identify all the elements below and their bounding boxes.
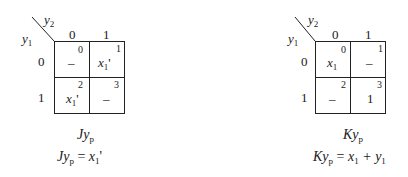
cell-value-3: – bbox=[103, 92, 110, 105]
cell-index-2: 2 bbox=[78, 80, 83, 90]
map-equation: Jyp = x1' bbox=[57, 150, 102, 166]
cell-value-2: x1' bbox=[66, 92, 79, 108]
col-header-0: 0 bbox=[69, 28, 76, 41]
cell-index-0: 0 bbox=[341, 45, 346, 55]
col-header-0: 0 bbox=[332, 28, 339, 41]
cell-index-1: 1 bbox=[116, 44, 121, 54]
cell-value-0: – bbox=[68, 56, 75, 69]
col-variable-label: y2 bbox=[44, 13, 54, 29]
map-equation: Kyp = x1 + y1 bbox=[313, 150, 386, 166]
cell-index-1: 1 bbox=[378, 44, 383, 54]
cell-value-0: x1 bbox=[327, 56, 337, 72]
cell-index-0: 0 bbox=[78, 45, 83, 55]
row-header-1: 1 bbox=[38, 91, 45, 104]
row-header-0: 0 bbox=[38, 55, 45, 68]
row-variable-label: y1 bbox=[22, 32, 32, 48]
cell-index-3: 3 bbox=[114, 80, 119, 90]
row-variable-label: y1 bbox=[288, 32, 298, 48]
col-variable-label: y2 bbox=[308, 13, 318, 29]
karnaugh-map-jyp: y2 y1 0 1 0 1 0 – 1 x1' 2 x1' 3 – Jyp Jy… bbox=[0, 0, 204, 177]
map-title: Jyp bbox=[77, 128, 94, 144]
cell-index-2: 2 bbox=[341, 80, 346, 90]
col-header-1: 1 bbox=[103, 28, 110, 41]
map-title: Kyp bbox=[343, 128, 363, 144]
cell-value-1: x1' bbox=[98, 56, 111, 72]
row-header-1: 1 bbox=[301, 91, 308, 104]
cell-index-3: 3 bbox=[377, 80, 382, 90]
cell-value-3: 1 bbox=[367, 92, 374, 105]
col-header-1: 1 bbox=[365, 28, 372, 41]
cell-value-2: – bbox=[329, 92, 336, 105]
cell-value-1: – bbox=[366, 56, 373, 69]
row-header-0: 0 bbox=[301, 55, 308, 68]
karnaugh-map-kyp: y2 y1 0 1 0 1 0 x1 1 – 2 – 3 1 Kyp Kyp =… bbox=[204, 0, 408, 177]
